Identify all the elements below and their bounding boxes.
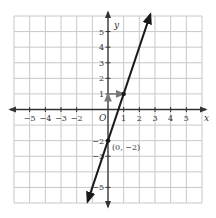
y-tick-label: 2	[99, 74, 104, 83]
x-tick-label: 5	[184, 114, 189, 123]
x-tick-label: −2	[71, 114, 83, 123]
y-tick-label: 5	[99, 28, 104, 37]
y-axis-label: y	[113, 20, 120, 30]
x-tick-label: 1	[121, 114, 126, 123]
y-tick-label: 4	[99, 43, 104, 52]
data-point	[106, 138, 110, 142]
y-tick-label: −2	[92, 137, 104, 146]
x-tick-label: −3	[55, 114, 67, 123]
x-tick-label: −5	[24, 114, 36, 123]
x-tick-label: −4	[39, 114, 51, 123]
coordinate-plane: −5−4−3−21234554321−2−3−5Oxy(0, −2)	[0, 0, 216, 218]
x-tick-label: 3	[152, 114, 157, 123]
point-label: (0, −2)	[112, 143, 140, 152]
x-axis-label: x	[204, 113, 209, 123]
x-tick-label: 4	[168, 114, 173, 123]
origin-label: O	[99, 113, 107, 123]
data-point	[121, 92, 125, 96]
y-tick-label: 3	[99, 59, 104, 68]
y-tick-label: 1	[99, 90, 104, 99]
line-series	[88, 14, 151, 201]
x-tick-label: 2	[137, 114, 142, 123]
